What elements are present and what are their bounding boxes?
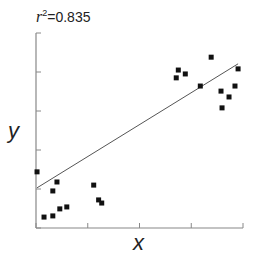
data-point: [64, 204, 69, 209]
data-point: [176, 68, 181, 73]
data-point: [220, 105, 225, 110]
axis-ticks: [36, 33, 243, 228]
data-point: [50, 213, 55, 218]
data-point: [57, 206, 62, 211]
r-squared-value: =0.835: [47, 9, 90, 25]
data-point: [209, 55, 214, 60]
data-point: [91, 183, 96, 188]
data-point: [42, 215, 47, 220]
data-point: [174, 75, 179, 80]
regression-line: [37, 64, 238, 188]
data-point: [236, 66, 241, 71]
r-squared-annotation: r2=0.835: [36, 8, 90, 26]
data-point: [54, 179, 59, 184]
data-point: [219, 89, 224, 94]
data-point: [99, 201, 104, 206]
data-point: [227, 94, 232, 99]
data-point: [50, 188, 55, 193]
data-point: [35, 169, 40, 174]
data-point: [198, 84, 203, 89]
x-axis-label: x: [133, 230, 144, 256]
data-points: [35, 55, 241, 220]
axes: [36, 33, 243, 228]
data-point: [232, 84, 237, 89]
scatter-plot: [0, 0, 259, 262]
y-axis-label: y: [8, 118, 19, 144]
data-point: [183, 71, 188, 76]
